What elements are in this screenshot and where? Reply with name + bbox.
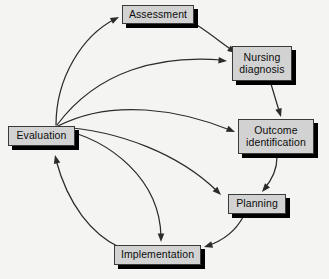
arrowhead-evaluation-to-outcome-identification <box>226 126 236 135</box>
edge-line-implementation-to-evaluation <box>56 160 119 247</box>
node-label-nursing-diagnosis: Nursing diagnosis <box>239 52 284 75</box>
edge-line-planning-to-implementation <box>207 217 243 246</box>
node-assessment: Assessment <box>122 5 194 24</box>
node-label-implementation: Implementation <box>121 249 194 260</box>
node-label-planning: Planning <box>236 198 278 209</box>
node-planning: Planning <box>228 194 286 214</box>
edge-nursing-diagnosis-to-outcome-identification <box>271 84 284 118</box>
nursing-process-diagram: AssessmentNursing diagnosisOutcome ident… <box>0 0 329 279</box>
node-outcome-identification: Outcome identification <box>238 119 314 154</box>
edge-evaluation-to-assessment <box>56 14 120 125</box>
edge-line-outcome-identification-to-planning <box>264 157 277 189</box>
arrowhead-evaluation-to-implementation <box>158 234 165 243</box>
node-label-evaluation: Evaluation <box>16 130 66 141</box>
arrowhead-evaluation-to-nursing-diagnosis <box>218 57 227 64</box>
edge-implementation-to-evaluation <box>52 154 119 247</box>
arrowhead-nursing-diagnosis-to-outcome-identification <box>275 108 284 118</box>
node-label-assessment: Assessment <box>129 9 187 20</box>
arrowhead-evaluation-to-assessment <box>110 14 121 24</box>
arrowhead-planning-to-implementation <box>203 241 213 250</box>
edge-evaluation-to-nursing-diagnosis <box>57 57 227 125</box>
edge-line-evaluation-to-assessment <box>56 19 115 125</box>
edge-evaluation-to-outcome-identification <box>58 110 236 136</box>
arrowhead-outcome-identification-to-planning <box>259 183 270 194</box>
node-label-outcome-identification: Outcome identification <box>246 125 306 148</box>
node-implementation: Implementation <box>114 245 201 265</box>
edge-evaluation-to-planning <box>58 127 223 197</box>
node-evaluation: Evaluation <box>8 126 75 146</box>
node-nursing-diagnosis: Nursing diagnosis <box>232 46 292 81</box>
edge-planning-to-implementation <box>203 217 243 250</box>
edge-line-evaluation-to-outcome-identification <box>58 110 230 130</box>
edge-line-evaluation-to-nursing-diagnosis <box>57 59 222 125</box>
arrowhead-implementation-to-evaluation <box>52 154 60 164</box>
edge-outcome-identification-to-planning <box>259 157 277 194</box>
edge-line-evaluation-to-planning <box>58 127 217 191</box>
